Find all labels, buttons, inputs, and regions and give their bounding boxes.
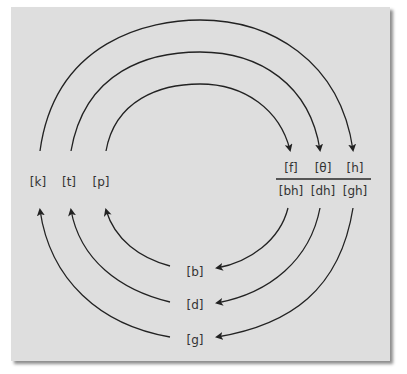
label-t: [t] (62, 175, 76, 189)
divider-line (276, 178, 371, 180)
label-bh: [bh] (279, 184, 304, 198)
arrow-g-to-k (40, 210, 170, 337)
label-d: [d] (187, 298, 204, 312)
label-gh: [gh] (343, 184, 368, 198)
arrow-p-to-f (106, 84, 290, 151)
label-h: [h] (347, 161, 364, 175)
arrow-t-to-theta (71, 52, 320, 151)
label-g: [g] (187, 333, 204, 347)
arrow-d-to-t (71, 210, 170, 302)
label-theta: [θ] (315, 161, 332, 175)
label-b: [b] (187, 265, 204, 279)
arrow-b-to-p (106, 210, 170, 266)
arrow-bh-to-b (217, 208, 288, 268)
arrow-gh-to-g (217, 208, 353, 337)
label-dh: [dh] (311, 184, 336, 198)
label-f: [f] (284, 161, 298, 175)
label-p: [p] (93, 175, 110, 189)
arrow-k-to-h (40, 20, 353, 151)
arrow-dh-to-d (217, 208, 320, 303)
label-k: [k] (30, 175, 46, 189)
